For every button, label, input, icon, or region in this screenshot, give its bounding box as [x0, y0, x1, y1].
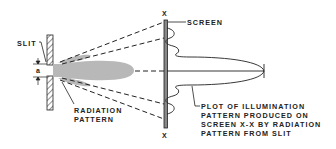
plot-label-3: SCREEN X-X BY RADIATION: [201, 120, 321, 129]
slit-wall-bottom: [47, 76, 53, 110]
screen: [164, 20, 168, 128]
plot-label-4: PATTERN FROM SLIT: [201, 129, 292, 138]
slit-wall-top: [47, 35, 53, 65]
plot-label-2: PATTERN PRODUCED ON: [201, 111, 309, 120]
screen-x-top: X: [162, 10, 167, 17]
slit-width-label: a: [36, 67, 40, 74]
diffraction-diagram: a SLIT RADIATION PATTERN X X SCREEN PLOT…: [0, 0, 336, 149]
plot-leader: [192, 86, 200, 106]
screen-x-bottom: X: [162, 132, 167, 139]
screen-label: SCREEN: [187, 18, 223, 27]
slit-leader: [39, 42, 46, 62]
radiation-pattern: [53, 55, 134, 87]
plot-label-1: PLOT OF ILLUMINATION: [201, 102, 305, 111]
radiation-leader: [62, 82, 74, 104]
slit-label: SLIT: [17, 39, 37, 48]
radiation-pattern-label-1: RADIATION: [74, 106, 122, 115]
radiation-pattern-label-2: PATTERN: [74, 115, 114, 124]
